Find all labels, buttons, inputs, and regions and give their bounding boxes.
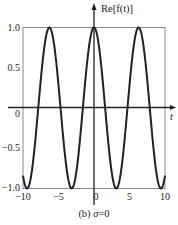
y-tick-label: 0.5 xyxy=(8,62,21,73)
y-axis-arrow-icon xyxy=(92,3,97,10)
x-axis-label: t xyxy=(170,111,174,122)
caption-suffix: =0 xyxy=(98,208,109,219)
x-axis-arrow-icon xyxy=(170,105,176,110)
y-tick-label: 1.0 xyxy=(8,22,21,33)
x-tick-label: 0 xyxy=(94,191,99,202)
caption-prefix: (b) xyxy=(78,208,93,220)
y-tick-label: 0 xyxy=(15,108,20,119)
x-tick-label: 5 xyxy=(127,191,132,202)
x-tick-label: −10 xyxy=(15,191,31,202)
x-tick-label: 10 xyxy=(160,191,170,202)
chart-canvas: Re[f(t)] t 1.0 0.5 0 −0.5 −1.0 −10 −5 0 … xyxy=(0,0,178,225)
x-tick-label: −5 xyxy=(53,191,64,202)
y-tick-label: −0.5 xyxy=(2,142,20,153)
figure-caption: (b) σ=0 xyxy=(78,208,109,220)
y-axis-label: Re[f(t)] xyxy=(101,3,133,15)
